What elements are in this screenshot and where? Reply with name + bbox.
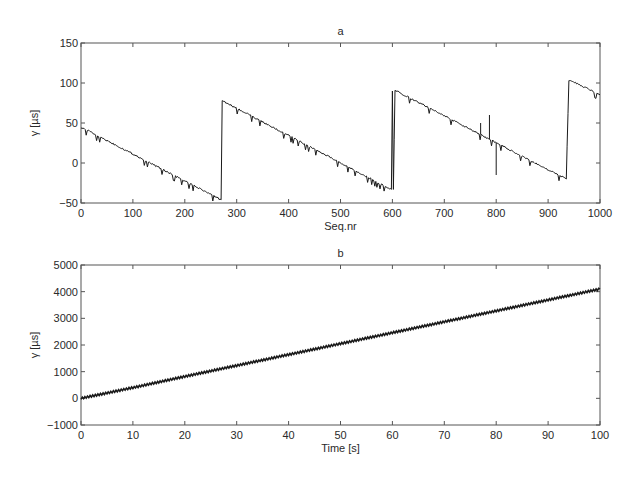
y-tick-label: −1000 bbox=[47, 419, 78, 431]
y-axis-label: γ [µs] bbox=[28, 332, 40, 359]
x-tick-label: 400 bbox=[279, 207, 297, 219]
x-tick-label: 0 bbox=[78, 207, 84, 219]
x-tick-label: 50 bbox=[334, 429, 346, 441]
plot-b: 0102030405060708090100−10000100020003000… bbox=[28, 247, 609, 454]
x-tick-label: 300 bbox=[228, 207, 246, 219]
x-tick-label: 0 bbox=[78, 429, 84, 441]
x-tick-label: 500 bbox=[331, 207, 349, 219]
x-tick-label: 10 bbox=[127, 429, 139, 441]
x-tick-label: 60 bbox=[386, 429, 398, 441]
x-tick-label: 600 bbox=[383, 207, 401, 219]
y-tick-label: 2000 bbox=[54, 339, 78, 351]
data-series-line bbox=[81, 288, 600, 399]
axes-box bbox=[81, 43, 600, 203]
y-tick-label: 100 bbox=[60, 77, 78, 89]
x-axis-label: Seq.nr bbox=[324, 220, 357, 232]
y-tick-label: 150 bbox=[60, 37, 78, 49]
x-tick-label: 40 bbox=[282, 429, 294, 441]
y-tick-label: 0 bbox=[72, 392, 78, 404]
x-tick-label: 100 bbox=[591, 429, 609, 441]
y-axis-label: γ [µs] bbox=[28, 110, 40, 137]
y-tick-label: 50 bbox=[66, 117, 78, 129]
data-series-line bbox=[81, 81, 600, 201]
x-axis-label: Time [s] bbox=[321, 442, 360, 454]
chart-title: a bbox=[337, 25, 344, 37]
x-tick-label: 30 bbox=[231, 429, 243, 441]
y-tick-label: 5000 bbox=[54, 259, 78, 271]
x-tick-label: 20 bbox=[179, 429, 191, 441]
x-tick-label: 100 bbox=[124, 207, 142, 219]
x-tick-label: 800 bbox=[487, 207, 505, 219]
x-tick-label: 70 bbox=[438, 429, 450, 441]
x-tick-label: 200 bbox=[176, 207, 194, 219]
y-tick-label: 4000 bbox=[54, 286, 78, 298]
x-tick-label: 80 bbox=[490, 429, 502, 441]
y-tick-label: 3000 bbox=[54, 312, 78, 324]
chart-title: b bbox=[337, 247, 343, 259]
y-tick-label: 1000 bbox=[54, 366, 78, 378]
x-tick-label: 700 bbox=[435, 207, 453, 219]
x-tick-label: 900 bbox=[539, 207, 557, 219]
plot-a: 01002003004005006007008009001000−5005010… bbox=[28, 25, 612, 232]
x-tick-label: 90 bbox=[542, 429, 554, 441]
y-tick-label: 0 bbox=[72, 157, 78, 169]
figure: 01002003004005006007008009001000−5005010… bbox=[0, 0, 644, 481]
y-tick-label: −50 bbox=[59, 197, 78, 209]
x-tick-label: 1000 bbox=[588, 207, 612, 219]
